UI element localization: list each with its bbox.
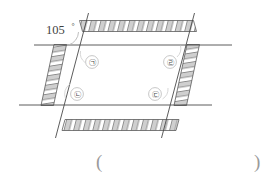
angle-arc-bottom-right-accent <box>163 88 169 99</box>
region-label-bottom-right-text: ㉢ <box>152 90 160 99</box>
degree-symbol-icon: ° <box>72 22 75 31</box>
region-label-top-right: ㉣ <box>164 56 177 69</box>
geometry-figure-container: 105 ° ㉠ ㉡ ㉢ ㉣ ( ) <box>0 0 273 182</box>
region-label-top-right-text: ㉣ <box>167 58 175 67</box>
answer-blank-open-paren: ( <box>96 151 102 173</box>
angle-arc-top-right-accent <box>177 46 181 58</box>
hatched-band-left <box>41 45 67 106</box>
region-label-top-left: ㉠ <box>86 56 99 69</box>
region-label-top-left-text: ㉠ <box>89 58 97 67</box>
region-label-bottom-right: ㉢ <box>149 88 162 101</box>
hatched-band-top <box>80 21 197 32</box>
angle-arc-top-left-accent <box>80 51 85 63</box>
hatched-band-bottom <box>62 120 179 131</box>
region-label-bottom-left: ㉡ <box>71 88 84 101</box>
region-label-bottom-left-text: ㉡ <box>74 90 82 99</box>
angle-arc-105 <box>69 32 79 45</box>
angle-label-105: 105 <box>46 23 65 37</box>
answer-blank-close-paren: ) <box>254 151 260 173</box>
parallel-lines-diagram: 105 ° ㉠ ㉡ ㉢ ㉣ ( ) <box>0 0 273 182</box>
